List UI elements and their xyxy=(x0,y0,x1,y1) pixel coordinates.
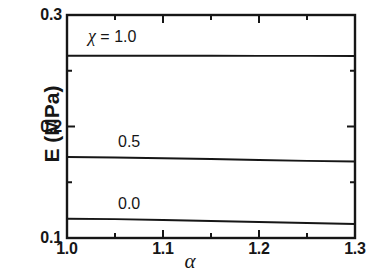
curve-0-5 xyxy=(67,157,355,162)
y-axis-title: E (MPa) xyxy=(40,34,64,214)
annotation-chi-00: 0.0 xyxy=(118,195,140,213)
plot-frame xyxy=(67,15,355,238)
annotation-chi-1: χ = 1.0 xyxy=(88,26,136,47)
chi-symbol: χ xyxy=(88,26,96,46)
x-axis-title: α xyxy=(0,249,380,274)
axis-ticks xyxy=(67,15,355,238)
annotation-chi-1-value: = 1.0 xyxy=(96,28,136,45)
chart-figure: 0.3 0.2 0.1 1.0 1.1 1.2 1.3 E (MPa) α χ … xyxy=(0,0,380,278)
annotation-chi-05: 0.5 xyxy=(118,133,140,151)
y-tick-label-0: 0.3 xyxy=(16,6,62,24)
curve-0-0 xyxy=(67,219,355,224)
data-curves xyxy=(67,56,355,224)
